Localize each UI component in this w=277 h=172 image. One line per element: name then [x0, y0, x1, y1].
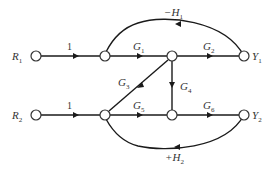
- node-c: [100, 110, 110, 120]
- gain-g1: G1: [133, 40, 145, 55]
- gain-r2-c: 1: [67, 100, 72, 111]
- node-r1: [31, 51, 41, 61]
- gain-g3: G3: [118, 76, 130, 91]
- gain-g6: G6: [203, 99, 215, 114]
- arrow-icon: [174, 144, 180, 150]
- gain-g2: G2: [203, 40, 215, 55]
- signal-flow-graph: R1 R2 Y1 Y2 1 1 G1 G2 G3 G4 G5 G6 −H1 +H…: [0, 0, 277, 172]
- arrow-icon: [175, 21, 181, 27]
- node-r2: [31, 110, 41, 120]
- arrow-icon: [73, 112, 79, 118]
- label-r1: R1: [11, 50, 23, 65]
- arrow-icon: [169, 82, 175, 88]
- node-d: [167, 110, 177, 120]
- gain-g5: G5: [133, 99, 145, 114]
- node-a: [100, 51, 110, 61]
- branch-minus-h1: [106, 19, 244, 56]
- label-y1: Y1: [252, 50, 262, 65]
- node-y2: [239, 110, 249, 120]
- arrow-icon: [73, 53, 79, 59]
- label-r2: R2: [11, 109, 23, 124]
- gain-g4: G4: [180, 80, 192, 95]
- node-y1: [239, 51, 249, 61]
- gain-r1-a: 1: [67, 41, 72, 52]
- label-y2: Y2: [252, 109, 262, 124]
- node-b: [167, 51, 177, 61]
- branch-plus-h2: [106, 115, 244, 149]
- gain-plus-h2: +H2: [165, 151, 184, 166]
